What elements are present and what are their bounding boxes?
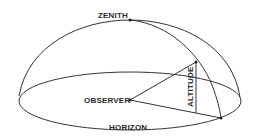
zenith-label: ZENITH xyxy=(98,11,128,20)
horizon-line xyxy=(130,100,221,118)
celestial-sphere-diagram: ZENITH OBSERVER HORIZON ALTITUDE xyxy=(0,0,254,140)
horizon-foot-point xyxy=(220,117,223,120)
horizon-label: HORIZON xyxy=(109,123,147,132)
zenith-point xyxy=(129,19,132,22)
star-point xyxy=(195,61,198,64)
dome-outline xyxy=(19,20,240,97)
vertical-circle-arc xyxy=(130,20,221,118)
altitude-label: ALTITUDE xyxy=(186,66,195,107)
observer-label: OBSERVER xyxy=(84,96,130,105)
